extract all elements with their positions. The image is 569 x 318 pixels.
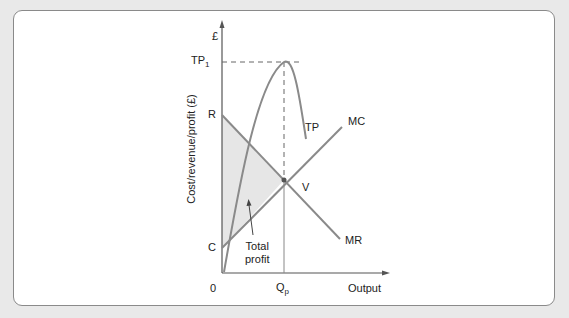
tp-label: TP — [305, 121, 319, 133]
x-axis-label: Output — [348, 282, 381, 294]
tp1-label: TP1 — [191, 54, 210, 69]
mr-label: MR — [345, 234, 362, 246]
y-axis-label: Cost/revenue/profit (£) — [185, 89, 197, 209]
origin-label: 0 — [210, 282, 216, 294]
y-axis-currency: £ — [212, 30, 218, 42]
mc-label: MC — [348, 115, 365, 127]
qp-text: Q — [276, 281, 285, 293]
v-point — [282, 178, 287, 183]
annotation-line-2: profit — [245, 253, 269, 266]
profit-diagram — [0, 0, 569, 318]
tp1-subscript: 1 — [205, 60, 209, 69]
r-label: R — [208, 108, 216, 120]
qp-subscript: p — [285, 287, 289, 296]
x-axis-arrow-icon — [382, 271, 390, 276]
v-label: V — [302, 181, 309, 193]
total-profit-annotation: Total profit — [245, 240, 269, 266]
annotation-line-1: Total — [245, 240, 269, 253]
qp-label: Qp — [276, 281, 289, 296]
c-label: C — [208, 241, 216, 253]
y-axis-arrow-icon — [220, 20, 225, 28]
tp1-text: TP — [191, 54, 205, 66]
